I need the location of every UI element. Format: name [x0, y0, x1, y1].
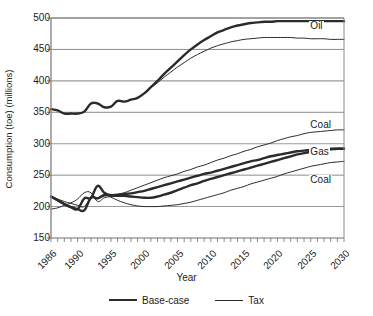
- legend-item-base-case: Base-case: [109, 295, 189, 306]
- series-line-1: [51, 37, 344, 113]
- x-minor-ticks: [51, 238, 344, 242]
- y-tick-label-500: 500: [24, 13, 50, 23]
- legend-label: Base-case: [142, 295, 189, 306]
- series-line-0: [51, 21, 344, 114]
- series-label-gas-2: Gas: [309, 147, 329, 157]
- y-tick-label-450: 450: [24, 44, 50, 54]
- series-label-oil-0: Oil: [309, 21, 323, 31]
- cropped-title-remnant: [40, 0, 360, 8]
- series-label-coal-1: Coal: [309, 120, 332, 130]
- series-label-coal-3: Coal: [309, 175, 332, 185]
- y-tick-label-250: 250: [24, 170, 50, 180]
- x-axis-title: Year: [0, 272, 373, 283]
- chart-legend: Base-caseTax: [0, 292, 373, 308]
- gridlines: [47, 18, 344, 238]
- y-axis-title: Consumption (toe) (millions): [2, 14, 16, 244]
- y-tick-label-350: 350: [24, 107, 50, 117]
- legend-item-tax: Tax: [215, 295, 264, 306]
- y-tick-label-300: 300: [24, 139, 50, 149]
- legend-swatch-thick: [109, 299, 137, 301]
- series-line-3: [51, 149, 344, 212]
- y-tick-label-200: 200: [24, 202, 50, 212]
- chart-figure: Consumption (toe) (millions) 15020025030…: [0, 0, 373, 316]
- plot-canvas: [0, 0, 373, 316]
- legend-label: Tax: [248, 295, 264, 306]
- axis-frame: [51, 18, 344, 238]
- legend-swatch-thin: [215, 300, 243, 301]
- y-tick-label-400: 400: [24, 76, 50, 86]
- y-tick-label-150: 150: [24, 233, 50, 243]
